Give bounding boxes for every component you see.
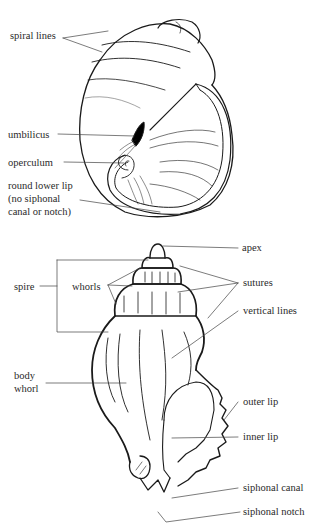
label-siphonal-canal: siphonal canal	[243, 482, 303, 494]
label-spire: spire	[14, 281, 34, 293]
shell-anatomy-diagram	[0, 0, 324, 532]
label-whorls: whorls	[72, 281, 101, 293]
label-sutures: sutures	[243, 277, 273, 289]
label-round-lower-lip-line3: canal or notch)	[8, 206, 71, 218]
label-inner-lip: inner lip	[243, 431, 278, 443]
label-round-lower-lip-line2: (no siphonal	[8, 193, 60, 205]
label-outer-lip: outer lip	[243, 396, 278, 408]
label-operculum: operculum	[8, 157, 53, 169]
label-umbilicus: umbilicus	[8, 129, 49, 141]
label-vertical-lines: vertical lines	[243, 305, 297, 317]
label-round-lower-lip-line1: round lower lip	[8, 180, 73, 192]
snail-shell-drawing	[80, 20, 233, 217]
label-apex: apex	[242, 242, 262, 254]
whelk-shell-drawing	[92, 244, 228, 492]
label-spiral-lines: spiral lines	[10, 30, 56, 42]
label-body-whorl-line2: whorl	[14, 383, 39, 395]
label-body-whorl-line1: body	[14, 370, 35, 382]
label-siphonal-notch: siphonal notch	[243, 506, 305, 518]
